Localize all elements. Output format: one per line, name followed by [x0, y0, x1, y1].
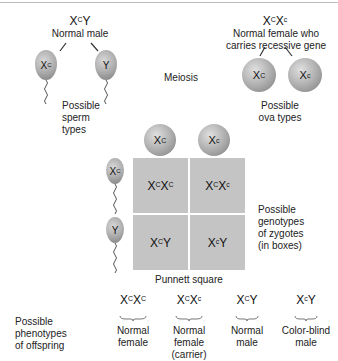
- punnett-ovum-xc-recessive: Xc: [198, 124, 230, 156]
- ova-types-label: Possible ova types: [245, 100, 315, 124]
- punnett-cell-xcxc-dominant: XCXC: [133, 158, 188, 213]
- punnett-cell-xcy-colorblind: XcY: [190, 215, 245, 270]
- sperm-types-label: Possible sperm types: [62, 100, 112, 136]
- zygote-genotypes-label: Possible genotypes of zygotes (in boxes): [258, 204, 338, 252]
- punnett-cell-xcy-normal: XCY: [133, 215, 188, 270]
- phenotype-colorblind-male: XcY Color-blindmale: [277, 293, 335, 349]
- sperm-tail-icon: [109, 184, 121, 214]
- brace-icon: [164, 315, 214, 321]
- mother-genotype: XCXc: [245, 14, 305, 28]
- punnett-ovum-xc-dominant: XC: [144, 124, 176, 156]
- brace-icon: [277, 315, 335, 321]
- phenotypes-label: Possible phenotypes of offspring: [15, 316, 85, 352]
- phenotype-carrier-female: XCXc Normalfemale(carrier): [164, 293, 214, 361]
- brace-icon: [222, 315, 272, 321]
- mother-label: Normal female who carries recessive gene: [220, 28, 332, 52]
- punnett-square-title: Punnett square: [155, 274, 223, 286]
- meiosis-label: Meiosis: [164, 72, 198, 84]
- phenotype-normal-male: XCY Normalmale: [222, 293, 272, 349]
- brace-icon: [108, 315, 158, 321]
- sperm-tail-icon: [109, 243, 121, 273]
- punnett-cell-xcxc-carrier: XCXc: [190, 158, 245, 213]
- ovum-xc-dominant: XC: [242, 58, 276, 92]
- ovum-xc-recessive: Xc: [288, 58, 322, 92]
- sperm-tail-icon: [40, 80, 52, 108]
- phenotype-normal-female: XCXC Normalfemale: [108, 293, 158, 349]
